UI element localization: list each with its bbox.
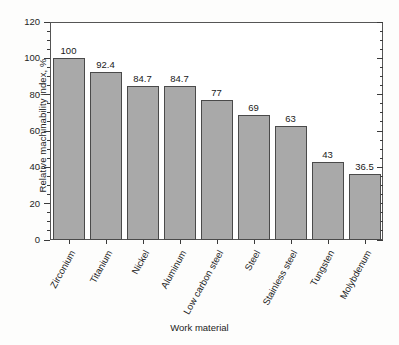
x-axis-title: Work material xyxy=(0,322,399,333)
bar-slot: 69 xyxy=(235,22,272,240)
bar[interactable] xyxy=(164,86,196,240)
bar-value-label: 63 xyxy=(285,113,296,124)
y-axis-tick-label: 0 xyxy=(2,234,40,245)
x-axis-category-label: Nickel xyxy=(130,249,151,276)
y-axis-tick-label: 40 xyxy=(2,161,40,172)
bar-value-label: 92.4 xyxy=(96,59,115,70)
x-axis-category-label: Low carbon steel xyxy=(181,249,225,317)
bar[interactable] xyxy=(238,115,270,240)
bar[interactable] xyxy=(127,86,159,240)
x-axis-category-label: Stainless steel xyxy=(260,249,298,307)
bar[interactable] xyxy=(275,126,307,240)
bar-value-label: 77 xyxy=(211,87,222,98)
y-axis-tick-label: 20 xyxy=(2,198,40,209)
x-axis-category-label: Zirconium xyxy=(48,249,77,290)
bar-slot: 92.4 xyxy=(87,22,124,240)
bar[interactable] xyxy=(201,100,233,240)
bar-slot: 84.7 xyxy=(124,22,161,240)
bar-value-label: 69 xyxy=(248,102,259,113)
bar-series: 10092.484.784.77769634336.5 xyxy=(50,22,383,240)
bar[interactable] xyxy=(312,162,344,240)
bar-value-label: 43 xyxy=(322,149,333,160)
y-axis-tick-label: 120 xyxy=(2,16,40,27)
x-axis-tick xyxy=(180,240,181,244)
x-axis-tick xyxy=(143,240,144,244)
x-axis-category-label: Tungsten xyxy=(308,249,336,288)
x-axis-tick xyxy=(328,240,329,244)
x-axis-tick xyxy=(217,240,218,244)
bar-value-label: 84.7 xyxy=(170,73,189,84)
bar-slot: 100 xyxy=(50,22,87,240)
bar-slot: 36.5 xyxy=(346,22,383,240)
bar-slot: 84.7 xyxy=(161,22,198,240)
x-axis-tick xyxy=(291,240,292,244)
x-axis-category-label: Titanium xyxy=(88,249,114,285)
bar[interactable] xyxy=(90,72,122,240)
bar-value-label: 84.7 xyxy=(133,73,152,84)
bar-slot: 77 xyxy=(198,22,235,240)
bar[interactable] xyxy=(53,58,85,240)
x-axis-category-label: Aluminum xyxy=(159,249,188,291)
x-axis-tick xyxy=(106,240,107,244)
bar-value-label: 36.5 xyxy=(355,161,374,172)
x-axis-tick xyxy=(69,240,70,244)
bar-slot: 63 xyxy=(272,22,309,240)
bar-slot: 43 xyxy=(309,22,346,240)
x-axis-category-label: Steel xyxy=(243,249,262,273)
x-axis-tick xyxy=(254,240,255,244)
y-axis-tick-label: 100 xyxy=(2,52,40,63)
machinability-bar-chart-figure: Relative machinability index, % 02040608… xyxy=(0,0,399,345)
x-axis-tick xyxy=(365,240,366,244)
y-axis-tick-label: 80 xyxy=(2,89,40,100)
y-axis-tick-label: 60 xyxy=(2,125,40,136)
bar[interactable] xyxy=(349,174,381,240)
bar-value-label: 100 xyxy=(61,45,77,56)
x-axis-category-label: Molybdenum xyxy=(338,249,373,301)
